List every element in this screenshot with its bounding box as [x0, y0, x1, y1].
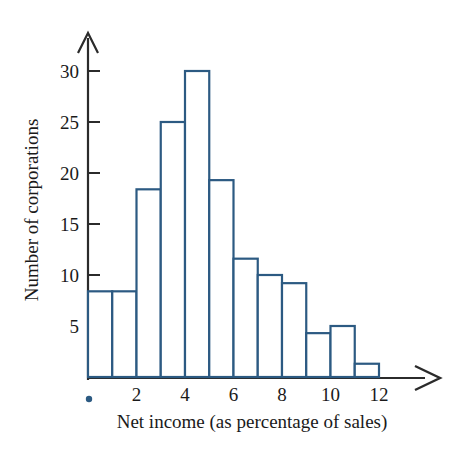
x-axis-title: Net income (as percentage of sales) [117, 411, 388, 433]
y-tick-label: 10 [60, 265, 79, 286]
chart-svg: 51015202530 24681012 Number of corporati… [0, 0, 473, 456]
histogram-bar [282, 283, 306, 377]
histogram-bar [137, 189, 161, 377]
y-tick-label: 20 [60, 163, 79, 184]
histogram-bar [209, 180, 233, 377]
y-tick-label: 30 [60, 61, 79, 82]
origin-dot-marker [86, 396, 92, 402]
x-tick-label: 4 [180, 384, 190, 405]
y-tick-label: 15 [60, 214, 79, 235]
histogram-bar [88, 291, 112, 377]
x-tick-label: 2 [132, 384, 142, 405]
x-tick-label: 8 [277, 384, 287, 405]
x-tick-label: 12 [370, 384, 389, 405]
y-tick-label: 5 [70, 316, 80, 337]
histogram-bar [234, 259, 258, 377]
histogram-bar [112, 291, 136, 377]
x-tick-label: 6 [229, 384, 239, 405]
histogram-bar [185, 71, 209, 377]
histogram-chart: 51015202530 24681012 Number of corporati… [0, 0, 473, 456]
histogram-bar [306, 333, 330, 377]
histogram-bar [258, 275, 282, 377]
histogram-bar [331, 326, 355, 377]
x-tick-label: 10 [321, 384, 340, 405]
histogram-bar [355, 364, 379, 377]
y-tick-label: 25 [60, 112, 79, 133]
histogram-bar [161, 122, 185, 377]
y-axis-title: Number of corporations [21, 119, 42, 302]
